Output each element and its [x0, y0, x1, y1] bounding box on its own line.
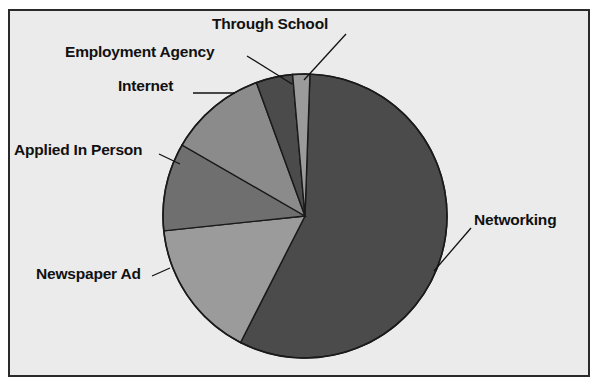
- pie-slices: [163, 74, 447, 358]
- pie-label-newspaper-ad: Newspaper Ad: [36, 266, 141, 282]
- leader-line-newspaper-ad: [152, 268, 170, 276]
- pie-label-internet: Internet: [118, 78, 173, 94]
- pie-label-through-school: Through School: [212, 16, 328, 32]
- pie-label-employment-agency: Employment Agency: [65, 44, 214, 60]
- pie-label-applied-in-person: Applied In Person: [14, 142, 142, 158]
- leader-line-through-school: [304, 34, 346, 80]
- chart-page: Through School Employment Agency Interne…: [0, 0, 600, 388]
- pie-label-networking: Networking: [474, 212, 556, 228]
